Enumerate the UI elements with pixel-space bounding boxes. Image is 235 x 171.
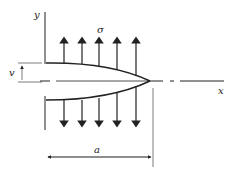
x-axis-label: x [218,85,224,96]
crack-faces [46,63,150,100]
stress-arrows-down [64,86,136,124]
opening-label: v [9,67,15,78]
crack-diagram: y x σ v a [0,0,235,171]
opening-dimension: v [9,63,42,82]
y-axis: y [33,9,45,130]
stress-arrows-up [64,40,136,76]
crack-length-label: a [94,144,100,155]
y-axis-label: y [33,9,40,20]
stress-label: σ [97,24,105,35]
